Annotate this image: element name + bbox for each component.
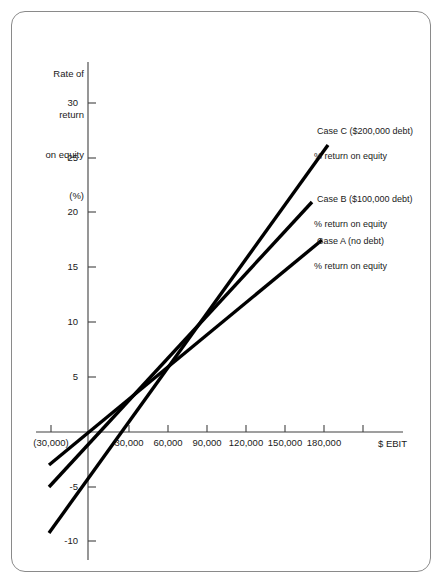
x-axis-title: $ EBIT [378, 437, 407, 451]
annotation-case-c-line1: Case C ($200,000 debt) [317, 126, 413, 136]
y-tick-label-20: 20 [38, 206, 78, 217]
y-axis-title: Rate of return on equity (%) [18, 40, 84, 229]
chart-figure: Rate of return on equity (%) $ EBIT 30 2… [0, 0, 444, 585]
y-axis-title-line-4: (%) [18, 189, 84, 203]
series-line-case-a [49, 240, 322, 465]
y-tick-label-minus-5: -5 [38, 481, 78, 492]
y-axis-title-line-1: Rate of [18, 67, 84, 81]
annotation-case-a-line2: % return on equity [307, 260, 387, 273]
y-tick-label-minus-10: -10 [38, 535, 78, 546]
annotation-case-a-line1: Case A (no debt) [317, 236, 384, 246]
y-tick-label-10: 10 [38, 316, 78, 327]
y-tick-label-30: 30 [38, 97, 78, 108]
x-tick-label-180000: 180,000 [289, 437, 359, 448]
x-tick-label-neg-30000: (30,000) [16, 437, 86, 448]
annotation-case-b-line1: Case B ($100,000 debt) [317, 194, 413, 204]
series-line-case-c [49, 145, 328, 533]
annotation-case-c: Case C ($200,000 debt) % return on equit… [307, 112, 413, 187]
annotation-case-a: Case A (no debt) % return on equity [307, 222, 387, 297]
annotation-case-c-line2: % return on equity [307, 150, 413, 163]
y-tick-label-25: 25 [38, 152, 78, 163]
y-tick-label-5: 5 [38, 371, 78, 382]
y-axis-title-line-2: return [18, 108, 84, 122]
y-tick-label-15: 15 [38, 261, 78, 272]
